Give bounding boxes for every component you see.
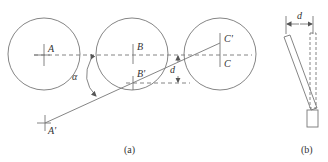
label-alpha: α [72,71,78,82]
tilted-rod [284,35,317,110]
caption-a: (a) [124,144,135,156]
alpha-arc [87,59,96,96]
label-d-a: d [170,64,176,75]
label-d-b: d [297,10,303,21]
caption-b: (b) [301,144,313,156]
label-c-prime: C' [224,33,234,44]
rod-base [307,110,318,127]
label-a: A [47,43,55,54]
figure-a [8,18,256,131]
label-c: C [224,58,231,69]
label-b-prime: B' [137,68,146,79]
label-a-prime: A' [47,125,57,136]
label-b: B [137,41,143,52]
figure-b [284,16,318,127]
figure-a-labels: A B C A' B' C' α d (a) [47,33,234,156]
diagram-canvas: A B C A' B' C' α d (a) d (b) [0,0,328,162]
circle-b [96,18,168,90]
